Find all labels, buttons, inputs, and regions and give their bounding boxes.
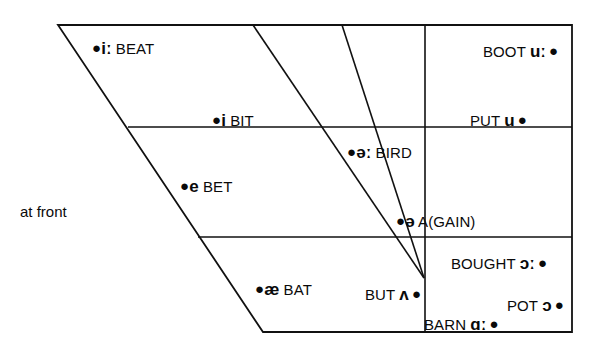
vowel-word-bet: BET <box>203 178 232 195</box>
vowel-word-pot: POT <box>507 297 538 314</box>
vowel-dot-but: ● <box>412 285 421 302</box>
vowel-point-bit: ●i BIT <box>212 112 254 129</box>
vowel-word-but: BUT <box>365 286 395 303</box>
vowel-dot-beat: ● <box>92 39 101 56</box>
vowel-point-boot: BOOT uː ● <box>483 43 558 60</box>
vowel-point-bet: ●e BET <box>180 178 232 195</box>
vowel-word-beat: BEAT <box>116 40 154 57</box>
vowel-symbol-pot: ɔ <box>542 296 551 315</box>
vowel-word-bat: BAT <box>284 281 312 298</box>
vowel-symbol-barn: ɑː <box>470 315 486 334</box>
vowel-point-bought: BOUGHT ɔː ● <box>451 255 547 272</box>
vowel-symbol-again: ə <box>405 212 414 231</box>
vowel-chart: ●iː BEAT●i BIT●e BET●æ BAT●əː BIRD●ə A(G… <box>0 0 595 361</box>
vowel-point-again: ●ə A(GAIN) <box>396 213 475 230</box>
vowel-word-bird: BIRD <box>376 144 412 161</box>
at-front-annotation: at front <box>20 203 67 220</box>
vowel-dot-bet: ● <box>180 177 189 194</box>
vowel-symbol-boot: uː <box>530 42 546 61</box>
vowel-dot-put: ● <box>518 111 527 128</box>
vowel-symbol-bat: æ <box>264 280 279 299</box>
vowel-point-but: BUT ʌ ● <box>365 286 421 303</box>
vowel-symbol-beat: iː <box>101 39 111 58</box>
vowel-point-put: PUT u ● <box>470 112 527 129</box>
vowel-dot-again: ● <box>396 212 405 229</box>
vowel-quadrilateral-outline <box>58 25 572 332</box>
vowel-word-boot: BOOT <box>483 43 526 60</box>
vowel-word-again: A(GAIN) <box>418 213 475 230</box>
vowel-point-beat: ●iː BEAT <box>92 40 154 57</box>
vowel-point-bat: ●æ BAT <box>255 281 312 298</box>
vowel-dot-bird: ● <box>347 143 356 160</box>
vowel-word-put: PUT <box>470 112 500 129</box>
vowel-point-bird: ●əː BIRD <box>347 144 412 161</box>
vowel-symbol-bet: e <box>189 177 198 196</box>
vowel-word-bit: BIT <box>230 112 254 129</box>
vowel-symbol-bought: ɔː <box>520 254 535 273</box>
vowel-dot-pot: ● <box>555 296 564 313</box>
vowel-dot-bought: ● <box>538 254 547 271</box>
vowel-symbol-put: u <box>504 111 514 130</box>
vowel-dot-bat: ● <box>255 280 264 297</box>
vowel-symbol-but: ʌ <box>399 285 408 304</box>
vowel-symbol-bird: əː <box>356 143 371 162</box>
vowel-symbol-bit: i <box>221 111 226 130</box>
vowel-word-bought: BOUGHT <box>451 255 516 272</box>
vowel-dot-bit: ● <box>212 111 221 128</box>
vowel-dot-barn: ● <box>490 315 499 332</box>
vowel-point-pot: POT ɔ ● <box>507 297 564 314</box>
vowel-point-barn: BARN ɑː ● <box>424 316 499 333</box>
vowel-dot-boot: ● <box>549 42 558 59</box>
vowel-word-barn: BARN <box>424 316 466 333</box>
